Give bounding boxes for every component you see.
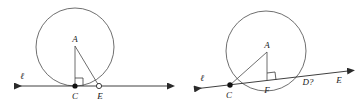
left-label-e: E [96, 91, 103, 101]
left-label-c: C [72, 91, 79, 101]
left-figure-group: A C E ℓ [14, 8, 168, 101]
right-label-d: D? [302, 77, 314, 87]
right-line-l [194, 71, 348, 89]
left-label-a: A [71, 34, 78, 44]
left-segment-a-e [75, 46, 99, 86]
geometry-figure-canvas: A C E ℓ A C F D? E ℓ [0, 0, 356, 103]
right-right-angle-marker [267, 72, 276, 80]
right-figure-group: A C F D? E ℓ [194, 11, 348, 100]
right-segment-a-c [230, 52, 267, 85]
right-label-e: E [335, 75, 342, 85]
geometry-svg: A C E ℓ A C F D? E ℓ [0, 0, 356, 103]
right-label-f: F [263, 85, 270, 95]
right-label-a: A [263, 40, 270, 50]
right-label-c: C [226, 90, 233, 100]
left-label-line-l: ℓ [20, 71, 24, 81]
left-point-e-marker [96, 83, 101, 88]
right-label-line-l: ℓ [200, 73, 204, 83]
right-circle [226, 11, 306, 91]
left-point-c-marker [72, 83, 77, 88]
right-point-c-marker [227, 82, 232, 87]
